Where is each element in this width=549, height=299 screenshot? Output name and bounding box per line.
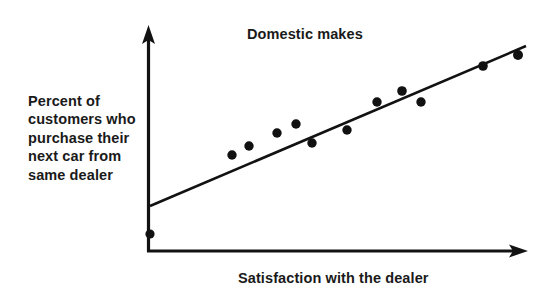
data-point	[397, 86, 407, 96]
data-point	[478, 61, 488, 71]
data-point	[272, 128, 281, 137]
x-axis-label: Satisfaction with the dealer	[238, 270, 429, 288]
data-point	[227, 150, 236, 159]
fitted-regression-line	[150, 46, 526, 206]
data-point	[291, 119, 300, 128]
y-axis-label: Percent of customers who purchase their …	[28, 92, 136, 184]
data-point	[145, 229, 154, 238]
data-point	[513, 50, 523, 60]
data-point	[416, 97, 425, 106]
data-point	[307, 138, 316, 147]
chart-title: Domestic makes	[247, 26, 363, 44]
data-point	[342, 125, 351, 134]
data-point	[372, 97, 381, 106]
data-point	[244, 141, 253, 150]
scatter-plot-figure: Domestic makes Percent of customers who …	[0, 0, 549, 299]
